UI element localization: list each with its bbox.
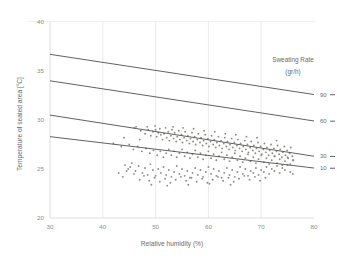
scatter-point bbox=[277, 145, 279, 147]
model-lines bbox=[50, 54, 314, 168]
scatter-point bbox=[156, 136, 158, 138]
scatter-point bbox=[163, 166, 165, 168]
y-tick-label: 30 bbox=[37, 116, 44, 123]
scatter-point bbox=[202, 176, 204, 178]
scatter-point bbox=[170, 176, 172, 178]
scatter-point bbox=[171, 129, 173, 131]
y-axis-title: Temperature of seated area [°C] bbox=[16, 77, 24, 171]
scatter-point bbox=[141, 172, 143, 174]
x-tick-label: 60 bbox=[205, 223, 212, 230]
x-tick-label: 40 bbox=[99, 223, 106, 230]
scatter-point bbox=[271, 168, 273, 170]
scatter-point bbox=[148, 180, 150, 182]
legend-units: (gr/h) bbox=[285, 68, 300, 76]
scatter-point bbox=[168, 148, 170, 150]
scatter-point bbox=[199, 142, 201, 144]
scatter-point bbox=[154, 177, 156, 179]
scatter-point bbox=[221, 177, 223, 179]
scatter-point bbox=[281, 167, 283, 169]
scatter-point bbox=[176, 156, 178, 158]
scatter-point bbox=[259, 180, 261, 182]
scatter-point bbox=[236, 159, 238, 161]
sweating-rate-line-label: 30 bbox=[320, 153, 327, 159]
scatter-point bbox=[169, 182, 171, 184]
scatter-point bbox=[214, 131, 216, 133]
scatter-point bbox=[263, 143, 265, 145]
scatter-point bbox=[202, 158, 204, 160]
scatter-point bbox=[135, 170, 137, 172]
scatter-point bbox=[162, 139, 164, 141]
scatter-point bbox=[170, 135, 172, 137]
scatter-point bbox=[155, 175, 157, 177]
scatter-point bbox=[221, 151, 223, 153]
scatter-point bbox=[186, 140, 188, 142]
scatter-point bbox=[266, 166, 268, 168]
scatter-point bbox=[210, 141, 212, 143]
scatter-point bbox=[176, 165, 178, 167]
scatter-point bbox=[200, 169, 202, 171]
scatter-point bbox=[268, 163, 270, 165]
scatter-point bbox=[228, 148, 230, 150]
scatter-point bbox=[223, 143, 225, 145]
scatter-point bbox=[247, 175, 249, 177]
sweating-rate-line-label: 10 bbox=[320, 165, 327, 171]
scatter-point bbox=[149, 163, 151, 165]
scatter-point bbox=[203, 130, 205, 132]
scatter-point bbox=[197, 174, 199, 176]
scatter-point bbox=[118, 172, 120, 174]
scatter-point bbox=[279, 158, 281, 160]
scatter-point bbox=[160, 172, 162, 174]
scatter-point bbox=[184, 175, 186, 177]
y-tick-label: 25 bbox=[37, 165, 44, 172]
scatter-point bbox=[260, 169, 262, 171]
scatter-point bbox=[192, 141, 194, 143]
scatter-point bbox=[279, 148, 281, 150]
scatter-point bbox=[292, 173, 294, 175]
scatter-point bbox=[256, 137, 258, 139]
scatter-point bbox=[233, 181, 235, 183]
x-tick-label: 30 bbox=[47, 223, 54, 230]
scatter-point bbox=[268, 154, 270, 156]
scatter-point bbox=[265, 151, 267, 153]
sweating-rate-line-label: 90 bbox=[320, 92, 327, 98]
scatter-point bbox=[147, 174, 149, 176]
scatter-point bbox=[238, 178, 240, 180]
scatter-point bbox=[215, 175, 217, 177]
scatter-point bbox=[168, 169, 170, 171]
y-tick-label: 40 bbox=[37, 18, 44, 25]
scatter-point bbox=[264, 177, 266, 179]
scatter-point bbox=[242, 173, 244, 175]
axis-lines bbox=[50, 22, 314, 218]
scatter-point bbox=[212, 144, 214, 146]
scatter-point bbox=[176, 136, 178, 138]
scatter-point bbox=[163, 156, 165, 158]
scatter-point bbox=[173, 171, 175, 173]
scatter-point bbox=[159, 150, 161, 152]
scatter-point bbox=[266, 157, 268, 159]
scatter-point bbox=[292, 159, 294, 161]
scatter-point bbox=[166, 137, 168, 139]
scatter-point bbox=[232, 146, 234, 148]
scatter-point bbox=[219, 145, 221, 147]
scatter-point bbox=[191, 132, 193, 134]
scatter-point bbox=[144, 167, 146, 169]
scatter-point bbox=[258, 158, 260, 160]
scatter-point bbox=[253, 145, 255, 147]
scatter-point bbox=[271, 152, 273, 154]
scatter-point bbox=[120, 146, 122, 148]
scatter-point bbox=[210, 173, 212, 175]
scatter-point bbox=[206, 182, 208, 184]
scatter-point bbox=[205, 143, 207, 145]
scatter-point bbox=[252, 172, 254, 174]
scatter-point bbox=[167, 131, 169, 133]
scatter-point bbox=[268, 173, 270, 175]
scatter-point bbox=[160, 134, 162, 136]
x-tick-label: 50 bbox=[152, 223, 159, 230]
scatter-point bbox=[165, 127, 167, 129]
scatter-point bbox=[231, 138, 233, 140]
scatter-point bbox=[233, 142, 235, 144]
scatter-point bbox=[168, 140, 170, 142]
scatter-point bbox=[281, 156, 283, 158]
gridlines bbox=[103, 22, 261, 218]
scatter-point bbox=[263, 171, 265, 173]
